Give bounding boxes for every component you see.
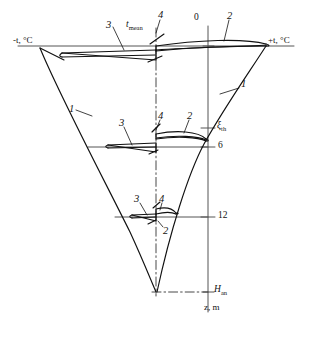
depth-axis-label: z, m <box>204 303 220 312</box>
leader-top-4 <box>156 20 160 33</box>
cone-left-envelope <box>40 48 156 292</box>
mean-temperature-label: tmean <box>126 20 143 31</box>
depth-tick-6: 6 <box>218 141 223 151</box>
figure-root: -t, °C +t, °C tmean ξth Han z, m 6 12 3 … <box>0 0 312 338</box>
leader-mid-2 <box>184 120 189 133</box>
callout-top-3: 3 <box>106 20 111 31</box>
cone-right-envelope <box>157 46 266 292</box>
low-ellipse-negative-top <box>132 214 156 215</box>
surface-ellipse-negative-top <box>62 50 156 53</box>
leader-top-3 <box>113 27 124 50</box>
low-mean-mark-lower <box>148 220 156 224</box>
depth-tick-12: 12 <box>218 211 228 221</box>
leader-low-3 <box>140 203 147 215</box>
low-ellipse-positive-cap <box>176 213 178 214</box>
low-ellipse-positive-bot <box>156 213 176 215</box>
thaw-depth-label: ξth <box>217 121 226 132</box>
leader-left-1 <box>76 110 92 116</box>
leader-top-2 <box>224 20 229 41</box>
callout-low-3: 3 <box>134 194 139 205</box>
callout-mid-4: 4 <box>158 111 163 122</box>
callout-mid-2: 2 <box>187 111 192 122</box>
left-temperature-axis-label: -t, °C <box>13 36 33 45</box>
callout-right-1: 1 <box>241 79 246 90</box>
surface-ellipse-negative-cap <box>60 53 62 57</box>
callout-top-2: 2 <box>227 11 232 22</box>
right-temperature-axis-label: +t, °C <box>268 36 290 45</box>
callout-top-4: 4 <box>158 10 163 21</box>
bottom-depth-label: Han <box>214 285 227 296</box>
leader-mid-3 <box>124 127 132 145</box>
surface-mean-mark-upper <box>150 34 164 44</box>
callout-mid-3: 3 <box>119 118 124 129</box>
diagram-canvas <box>0 0 312 338</box>
surface-ellipse-positive-top <box>156 40 266 46</box>
callout-low-2: 2 <box>163 226 168 237</box>
callout-origin-0: 0 <box>194 13 199 23</box>
callout-left-1: 1 <box>69 104 74 115</box>
callout-low-4: 4 <box>159 194 164 205</box>
mid-ellipse-negative-bot <box>108 145 156 152</box>
